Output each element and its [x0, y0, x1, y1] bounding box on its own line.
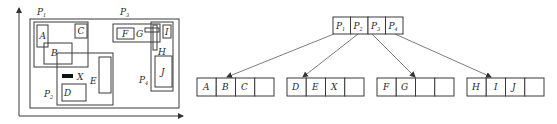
svg-text:I: I [493, 82, 498, 92]
rtree-figure: P1 A C B P2 X D E P3 F G P4 H I J [0, 0, 557, 124]
svg-text:G: G [401, 82, 408, 92]
svg-text:F: F [382, 82, 390, 92]
label-g: G [136, 29, 143, 39]
svg-text:H: H [471, 82, 480, 92]
label-e: E [89, 76, 97, 86]
svg-text:C: C [241, 82, 248, 92]
svg-text:A: A [202, 82, 210, 92]
spatial-diagram: P1 A C B P2 X D E P3 F G P4 H I J [19, 7, 183, 116]
label-p2: P2 [43, 89, 53, 100]
object-e [99, 57, 111, 93]
label-i: I [164, 27, 169, 37]
label-p4: P4 [138, 75, 148, 86]
label-p3: P3 [119, 7, 129, 18]
svg-text:B: B [221, 82, 229, 92]
leaf-node-2: D E X [287, 78, 364, 96]
leaf-node-3: F G [377, 78, 454, 96]
label-j: J [159, 67, 166, 77]
root-node: P1 P2 P3 P4 [333, 17, 403, 34]
svg-text:X: X [330, 82, 338, 92]
label-c: C [78, 26, 85, 36]
label-d: D [63, 88, 71, 98]
label-x: X [76, 72, 84, 82]
label-p1: P1 [36, 7, 46, 18]
label-f: F [121, 29, 129, 39]
pointer-p4 [395, 34, 491, 77]
leaf-node-1: A B C [197, 78, 274, 96]
svg-text:D: D [291, 82, 299, 92]
object-x [62, 74, 73, 78]
svg-text:E: E [311, 82, 319, 92]
leaf-node-4: H I J [467, 78, 544, 96]
label-a: A [39, 31, 47, 41]
pointer-p1 [227, 34, 334, 77]
rtree-structure: P1 P2 P3 P4 A B C D E X [197, 17, 544, 96]
pointer-p2 [303, 34, 358, 77]
object-h [153, 25, 157, 50]
